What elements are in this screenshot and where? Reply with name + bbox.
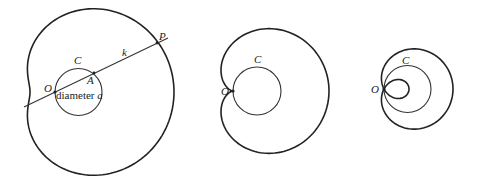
diameter-var: a xyxy=(97,89,103,101)
label-o-3: O xyxy=(371,83,379,95)
limacon-diagram: C O A P k diameter a C O C O xyxy=(0,0,481,187)
cardioid-curve xyxy=(221,29,329,154)
label-k: k xyxy=(122,46,128,58)
label-a: A xyxy=(86,74,94,86)
figure-dimpled-limacon: C O A P k diameter a xyxy=(24,9,174,175)
label-o-1: O xyxy=(44,82,52,94)
label-diameter: diameter a xyxy=(56,89,103,101)
circle-c-3 xyxy=(384,66,431,113)
label-o-2: O xyxy=(221,85,229,97)
label-c-1: C xyxy=(74,54,82,66)
diameter-word: diameter xyxy=(56,89,95,101)
point-o-2 xyxy=(231,89,234,92)
figure-cardioid: C O xyxy=(221,29,329,154)
limacon-curve-3 xyxy=(381,49,453,129)
label-p: P xyxy=(158,30,166,42)
point-o-3 xyxy=(382,87,385,90)
point-p xyxy=(156,42,159,45)
circle-c-2 xyxy=(233,67,281,115)
figure-inner-loop-limacon: C O xyxy=(371,49,453,129)
label-c-3: C xyxy=(402,54,410,66)
label-c-2: C xyxy=(254,53,262,65)
